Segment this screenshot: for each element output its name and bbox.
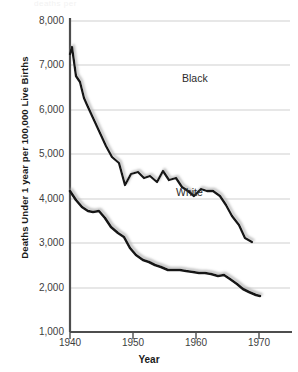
series-label-white: White	[176, 186, 203, 198]
x-tick-1960: 1960	[185, 337, 207, 349]
chart-figure: deaths per Deaths Under 1 year per 100,0…	[0, 0, 298, 372]
gridlines	[70, 21, 290, 288]
chart-svg	[0, 0, 298, 372]
x-tick-1940: 1940	[59, 337, 81, 349]
x-tick-1950: 1950	[122, 337, 144, 349]
x-tick-1970: 1970	[248, 337, 270, 349]
series-line-black	[70, 47, 252, 242]
series-label-black: Black	[182, 72, 208, 84]
x-axis-title: Year	[0, 354, 298, 365]
series-line-white	[70, 191, 260, 296]
plot-area	[0, 0, 298, 372]
x-axis-tick-labels: 1940 1950 1960 1970	[0, 337, 298, 351]
